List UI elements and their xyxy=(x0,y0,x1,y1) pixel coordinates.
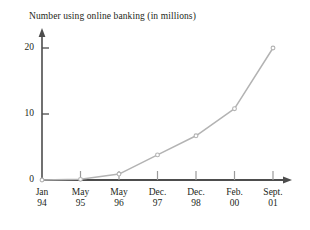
data-point-marker xyxy=(271,46,275,50)
tick-mark-group xyxy=(42,48,273,180)
data-series-group xyxy=(42,48,273,180)
data-point-marker xyxy=(156,153,160,157)
chart-figure: Number using online banking (in millions… xyxy=(0,0,310,230)
y-tick-label: 10 xyxy=(12,108,34,118)
x-axis-arrow-icon xyxy=(283,177,292,184)
axis-group xyxy=(39,28,292,183)
x-tick-label: Sept.01 xyxy=(250,187,296,209)
data-point-group xyxy=(40,46,275,182)
series-line xyxy=(42,48,273,180)
data-point-marker xyxy=(40,178,44,182)
x-tick-label-year: 01 xyxy=(250,198,296,209)
data-point-marker xyxy=(79,177,83,181)
data-point-marker xyxy=(117,172,121,176)
y-tick-label: 20 xyxy=(12,42,34,52)
data-point-marker xyxy=(233,107,237,111)
data-point-marker xyxy=(194,134,198,138)
y-axis-arrow-icon xyxy=(39,28,46,37)
x-tick-label-month: Sept. xyxy=(250,187,296,198)
y-tick-label: 0 xyxy=(12,174,34,184)
